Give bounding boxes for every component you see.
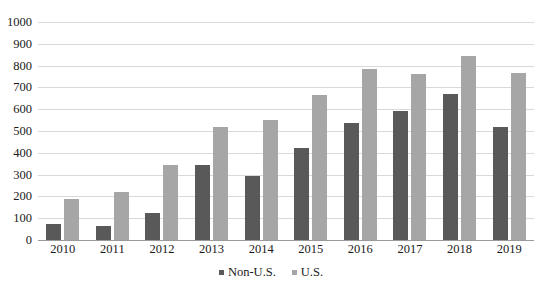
bar	[64, 199, 79, 240]
y-axis-tick-labels: 10009008007006005004003002001000	[0, 22, 36, 240]
bar	[245, 176, 260, 240]
bar-group	[88, 22, 138, 240]
bar-chart: 10009008007006005004003002001000 2010201…	[0, 0, 542, 293]
legend-swatch-icon	[292, 270, 297, 275]
bar	[114, 192, 129, 240]
x-tick-label: 2011	[88, 243, 138, 256]
y-tick-label: 100	[13, 212, 32, 225]
legend-label: Non-U.S.	[228, 266, 276, 279]
bar	[213, 127, 228, 240]
bar-group	[385, 22, 435, 240]
bar	[461, 56, 476, 240]
bar	[393, 111, 408, 240]
x-tick-label: 2015	[286, 243, 336, 256]
x-tick-label: 2013	[187, 243, 237, 256]
chart-legend: Non-U.S.U.S.	[0, 266, 542, 279]
x-axis-tick-labels: 2010201120122013201420152016201720182019	[38, 243, 534, 256]
legend-item[interactable]: Non-U.S.	[219, 266, 276, 279]
axis-baseline	[38, 240, 534, 241]
y-tick-label: 400	[13, 147, 32, 160]
bar	[195, 165, 210, 240]
y-tick-label: 1000	[7, 16, 32, 29]
bar-groups	[38, 22, 534, 240]
bar	[312, 95, 327, 240]
bar-group	[435, 22, 485, 240]
y-tick-label: 800	[13, 59, 32, 72]
y-tick-label: 300	[13, 168, 32, 181]
y-tick-label: 200	[13, 190, 32, 203]
x-tick-label: 2019	[484, 243, 534, 256]
bar	[96, 226, 111, 240]
bar-group	[38, 22, 88, 240]
bar	[46, 224, 61, 240]
bar-group	[336, 22, 386, 240]
bar	[263, 120, 278, 240]
x-tick-label: 2017	[385, 243, 435, 256]
legend-item[interactable]: U.S.	[292, 266, 323, 279]
x-tick-label: 2018	[435, 243, 485, 256]
bar-group	[236, 22, 286, 240]
x-tick-label: 2014	[236, 243, 286, 256]
bar	[362, 69, 377, 240]
y-tick-label: 0	[26, 234, 32, 247]
y-tick-label: 900	[13, 38, 32, 51]
bar-group	[484, 22, 534, 240]
y-tick-label: 700	[13, 81, 32, 94]
bar	[163, 165, 178, 240]
bar-group	[137, 22, 187, 240]
legend-label: U.S.	[301, 266, 323, 279]
bar	[344, 123, 359, 240]
plot-area	[38, 22, 534, 240]
bar	[493, 127, 508, 240]
bar	[294, 148, 309, 240]
x-tick-label: 2010	[38, 243, 88, 256]
bar-group	[187, 22, 237, 240]
bar-group	[286, 22, 336, 240]
y-tick-label: 600	[13, 103, 32, 116]
bar	[145, 213, 160, 240]
y-tick-label: 500	[13, 125, 32, 138]
bar	[411, 74, 426, 240]
bar	[443, 94, 458, 240]
bar	[511, 73, 526, 240]
x-tick-label: 2012	[137, 243, 187, 256]
legend-swatch-icon	[219, 270, 224, 275]
x-tick-label: 2016	[336, 243, 386, 256]
